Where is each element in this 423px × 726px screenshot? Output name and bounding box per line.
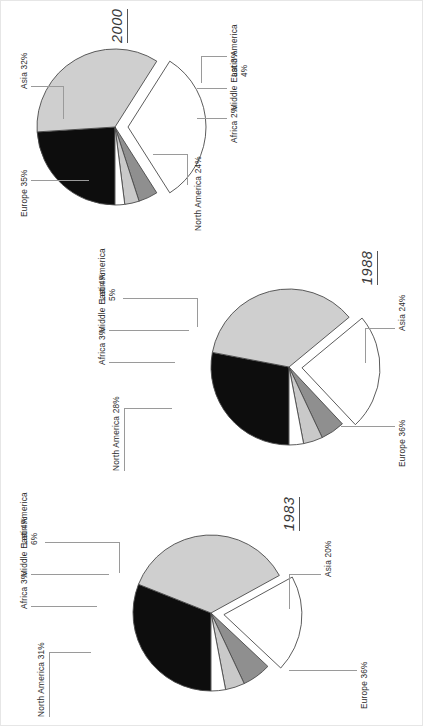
label-1988-asia: Asia 24% [397, 294, 407, 331]
pie-chart-1983: North America 31% Africa 3% Middle East … [1, 489, 423, 726]
year-label-1983: 1983 [281, 497, 300, 531]
pie-chart-2000: North America 24% Africa 2% Middle East … [1, 1, 423, 239]
year-label-1988: 1988 [359, 251, 378, 285]
label-1983-europe: Europe 36% [359, 661, 369, 709]
leader-1983-africa-v [31, 606, 97, 607]
leader-1988-la-v [123, 298, 197, 299]
leader-2000-na-v [153, 154, 188, 155]
label-1988-north-america: North America 28% [111, 396, 121, 471]
leader-1983-la-v [45, 542, 119, 543]
leader-1983-asia-h [289, 574, 290, 609]
label-1988-latin-america: Latin America5% [97, 237, 117, 301]
leader-1983-la-h [119, 542, 120, 573]
label-2000-africa: Africa 2% [229, 106, 239, 143]
pie2000-svg [23, 34, 208, 219]
pie-1988 [197, 274, 382, 459]
label-1983-north-america: North America 31% [36, 642, 46, 717]
label-2000-latin-america: Latin America4% [229, 13, 249, 77]
pie-chart-1988: North America 28% Africa 3% Middle East … [1, 245, 423, 483]
pie-2000 [23, 34, 208, 219]
label-1983-asia: Asia 20% [323, 540, 333, 577]
label-1988-africa: Africa 3% [97, 328, 107, 365]
label-1988-europe: Europe 36% [397, 419, 407, 467]
label-2000-asia: Asia 32% [19, 52, 29, 89]
pie1983-svg [119, 520, 304, 705]
leader-1983-na-h [49, 653, 50, 717]
rotated-figure-canvas: North America 31% Africa 3% Middle East … [1, 1, 423, 726]
leader-1988-asia-v [365, 328, 395, 329]
leader-2000-me-v [197, 88, 227, 89]
leader-2000-asia-h [63, 86, 64, 119]
year-label-2000: 2000 [109, 9, 128, 43]
leader-2000-asia-v [31, 86, 63, 87]
leader-2000-la-h [201, 56, 202, 83]
pie-slice-north-america [211, 352, 289, 445]
label-1983-latin-america: Latin America6% [19, 481, 39, 545]
pie-1983 [119, 520, 304, 705]
leader-2000-europe-v [31, 180, 89, 181]
leader-2000-na-h [187, 155, 188, 185]
leader-1983-asia-v [289, 574, 321, 575]
leader-1983-me-v [31, 574, 109, 575]
leader-1988-la-h [197, 298, 198, 327]
label-2000-north-america: North America 24% [193, 156, 203, 231]
label-1983-africa: Africa 3% [19, 572, 29, 609]
leader-1983-europe-v [289, 670, 357, 671]
leader-1988-asia-h [365, 328, 366, 363]
leader-1988-na-h [124, 409, 125, 471]
leader-1988-africa-v [109, 362, 175, 363]
pie1988-svg [197, 274, 382, 459]
leader-1983-na-v [49, 652, 91, 653]
leader-1988-na-v [124, 408, 172, 409]
pie-slice-north-america [37, 127, 115, 205]
leader-2000-africa-v [197, 118, 227, 119]
leader-1988-me-v [109, 330, 189, 331]
figure-page: North America 31% Africa 3% Middle East … [0, 0, 423, 726]
label-2000-europe: Europe 35% [19, 169, 29, 217]
leader-1988-europe-v [341, 426, 395, 427]
leader-2000-la-v [201, 56, 227, 57]
